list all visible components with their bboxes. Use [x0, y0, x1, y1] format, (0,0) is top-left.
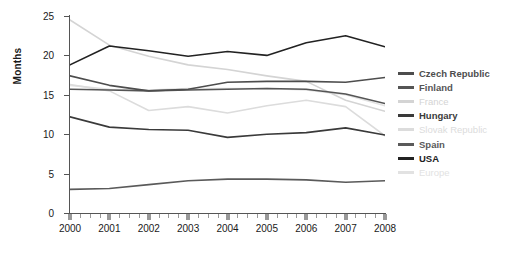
x-tick-minor — [375, 214, 376, 218]
x-tick-minor — [198, 214, 199, 218]
x-tick-major — [304, 214, 308, 220]
x-tick-label: 2007 — [326, 223, 366, 234]
legend-label: Europe — [419, 167, 450, 178]
x-tick-minor — [296, 214, 297, 218]
y-axis-tick-labels: 0510152025 — [30, 0, 54, 253]
legend-swatch-icon — [398, 171, 414, 174]
legend-item[interactable]: Europe — [398, 165, 510, 179]
x-tick-minor — [257, 214, 258, 218]
series-line — [70, 117, 385, 137]
legend-swatch-icon — [398, 128, 414, 131]
legend-label: Slovak Republic — [419, 124, 487, 135]
x-tick-minor — [100, 214, 101, 218]
x-tick-label: 2002 — [129, 223, 169, 234]
x-tick-minor — [237, 214, 238, 218]
x-tick-minor — [218, 214, 219, 218]
line-chart: Months 0510152025 2000200120022003200420… — [0, 0, 513, 253]
x-tick-minor — [326, 214, 327, 218]
x-tick-minor — [90, 214, 91, 218]
plot-area — [70, 16, 385, 213]
legend-item[interactable]: USA — [398, 151, 510, 165]
legend-label: USA — [419, 153, 439, 164]
legend-item[interactable]: Finland — [398, 80, 510, 94]
x-tick-label: 2001 — [89, 223, 129, 234]
legend-item[interactable]: France — [398, 94, 510, 108]
x-tick-minor — [316, 214, 317, 218]
y-tick-label: 25 — [32, 11, 54, 22]
legend-label: Czech Republic — [419, 68, 490, 79]
x-tick-major — [226, 214, 230, 220]
x-tick-minor — [129, 214, 130, 218]
legend-label: Finland — [419, 82, 453, 93]
x-tick-minor — [178, 214, 179, 218]
x-tick-label: 2004 — [208, 223, 248, 234]
y-tick-label: 5 — [32, 168, 54, 179]
x-tick-label: 2006 — [286, 223, 326, 234]
legend-swatch-icon — [398, 72, 414, 75]
x-tick-minor — [159, 214, 160, 218]
x-tick-minor — [119, 214, 120, 218]
x-tick-minor — [168, 214, 169, 218]
x-tick-major — [186, 214, 190, 220]
legend-item[interactable]: Slovak Republic — [398, 123, 510, 137]
legend-item[interactable]: Czech Republic — [398, 66, 510, 80]
legend-swatch-icon — [398, 143, 414, 146]
x-tick-label: 2005 — [247, 223, 287, 234]
legend-item[interactable]: Spain — [398, 137, 510, 151]
x-tick-major — [344, 214, 348, 220]
x-tick-label: 2000 — [50, 223, 90, 234]
legend-swatch-icon — [398, 100, 414, 103]
y-tick-label: 15 — [32, 89, 54, 100]
x-tick-minor — [336, 214, 337, 218]
x-tick-major — [265, 214, 269, 220]
y-tick-label: 10 — [32, 129, 54, 140]
x-tick-major — [383, 214, 387, 220]
series-line — [70, 36, 385, 65]
legend-label: Hungary — [419, 110, 458, 121]
x-tick-minor — [355, 214, 356, 218]
x-tick-label: 2008 — [365, 223, 405, 234]
x-tick-major — [147, 214, 151, 220]
x-tick-label: 2003 — [168, 223, 208, 234]
y-axis-title: Months — [12, 36, 23, 96]
legend-swatch-icon — [398, 157, 414, 160]
x-tick-minor — [365, 214, 366, 218]
x-tick-major — [68, 214, 72, 220]
legend-swatch-icon — [398, 86, 414, 89]
legend-label: France — [419, 96, 449, 107]
y-tick-label: 0 — [32, 208, 54, 219]
x-tick-minor — [80, 214, 81, 218]
x-tick-major — [107, 214, 111, 220]
x-tick-minor — [139, 214, 140, 218]
x-tick-minor — [287, 214, 288, 218]
legend-label: Spain — [419, 139, 445, 150]
y-tick-label: 20 — [32, 50, 54, 61]
series-line — [70, 20, 385, 111]
x-tick-minor — [277, 214, 278, 218]
x-tick-minor — [208, 214, 209, 218]
legend-item[interactable]: Hungary — [398, 109, 510, 123]
series-line — [70, 179, 385, 189]
chart-legend: Czech RepublicFinlandFranceHungarySlovak… — [398, 66, 510, 180]
legend-swatch-icon — [398, 114, 414, 117]
x-tick-minor — [247, 214, 248, 218]
